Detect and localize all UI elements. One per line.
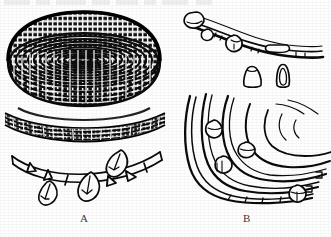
- panel-label-b: B: [243, 212, 251, 224]
- attached-bead-centre: [226, 35, 242, 52]
- arc-bead-lower-left: [215, 156, 232, 173]
- detached-bead-narrow: [277, 65, 290, 88]
- attached-bead-left: [201, 29, 213, 40]
- pendant-leaf-1: [39, 181, 57, 205]
- arc-bead-upper-left: [206, 120, 222, 138]
- pendant-leaf-3: [106, 150, 127, 177]
- arc-bead-centre: [238, 142, 255, 158]
- pendant-leaf-2: [78, 172, 99, 201]
- figure-artwork: [0, 0, 331, 237]
- panel-label-a: A: [80, 212, 88, 224]
- detached-beads: [244, 65, 290, 88]
- strand-terminal-knob: [184, 12, 204, 28]
- detached-bead-trapezoid: [244, 67, 261, 88]
- attached-bead-right: [266, 45, 290, 53]
- rim-strand-with-beads-detail: [184, 12, 323, 58]
- rim-with-pendants-detail: [12, 150, 162, 205]
- coiled-basket-perspective-view: [0, 8, 175, 112]
- figure-plate: A B: [0, 0, 331, 237]
- arc-bead-bottom-right: [289, 185, 306, 202]
- weave-detail-band: [0, 108, 175, 150]
- nested-coil-arcs-fragment: [185, 94, 331, 203]
